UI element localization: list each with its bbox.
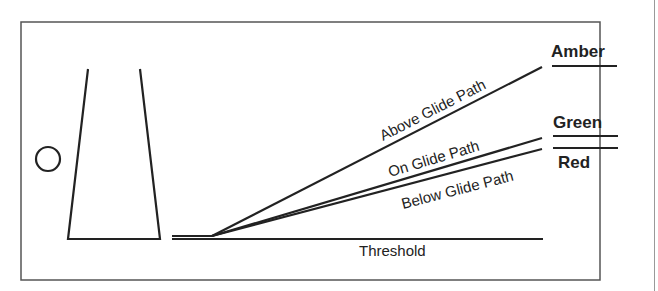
above-glide-path-label: Above Glide Path [377,76,489,144]
below-glide-path-label: Below Glide Path [399,167,515,212]
diagram-frame [21,22,600,280]
on-glide-path-label: On Glide Path [386,137,481,180]
threshold-label: Threshold [359,242,426,259]
green-indicator-label: Green [553,113,602,132]
below-glide-path-line [212,149,542,236]
runway-trapezoid [68,69,160,239]
light-source-circle-icon [36,147,60,171]
above-glide-path-line [212,67,542,236]
red-indicator-label: Red [558,153,590,172]
glide-path-diagram: Above Glide Path On Glide Path Below Gli… [0,0,658,291]
amber-indicator-label: Amber [551,42,605,61]
